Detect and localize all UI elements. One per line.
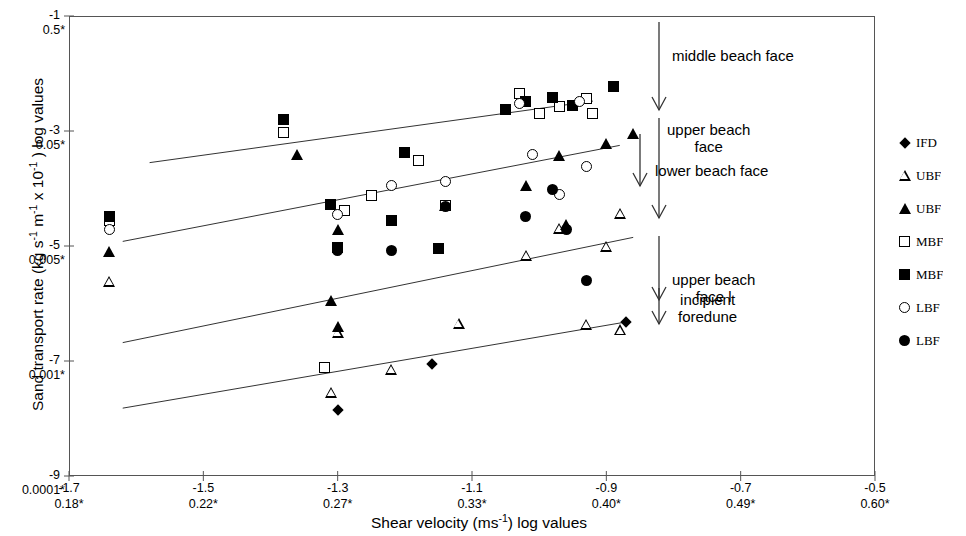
x-tick-secondary-3: 0.33* — [457, 498, 486, 511]
legend-marker-diamond-filled — [896, 139, 913, 147]
legend-item-1[interactable]: UBF — [896, 159, 966, 192]
y-axis-sup-2: -1 — [27, 205, 39, 214]
data-point-circle-open — [514, 98, 525, 109]
legend-marker-glyph — [899, 203, 911, 214]
data-point-square-filled — [386, 215, 397, 226]
legend-item-3[interactable]: MBF — [896, 225, 966, 258]
x-tick-secondary-0: 0.18* — [54, 498, 83, 511]
y-axis-title-mid1: m — [29, 214, 46, 231]
legend-marker-triangle-open — [896, 170, 913, 181]
y-axis-title-text: Sand transport rate (kg s — [29, 240, 46, 411]
y-tick-primary-0: -1 — [49, 9, 60, 22]
x-tick-secondary-5: 0.49* — [726, 498, 755, 511]
legend-item-2[interactable]: UBF — [896, 192, 966, 225]
y-axis-title-mid2: x 10 — [29, 171, 46, 205]
data-point-circle-open — [386, 180, 397, 191]
legend-item-6[interactable]: LBF — [896, 324, 966, 357]
data-point-circle-open — [574, 96, 585, 107]
data-point-triangle-filled — [520, 180, 532, 191]
y-tick-secondary-4: 0.0001* — [22, 484, 65, 497]
data-point-circle-filled — [581, 275, 592, 286]
data-point-triangle-filled — [332, 321, 344, 332]
legend-label: UBF — [916, 168, 941, 184]
legend-marker-circle-filled — [896, 335, 913, 346]
legend-item-0[interactable]: IFD — [896, 126, 966, 159]
y-axis-sup-3: -1 — [27, 162, 39, 171]
legend-label: MBF — [916, 267, 943, 283]
data-point-triangle-filled — [103, 246, 115, 257]
data-point-square-filled — [433, 243, 444, 254]
y-tick-secondary-0: 0.5* — [43, 24, 65, 37]
annotation-label-1: upper beach face — [667, 122, 750, 156]
data-point-circle-open — [527, 149, 538, 160]
data-point-square-open — [366, 190, 377, 201]
legend-marker-square-filled — [896, 269, 913, 280]
x-tick-primary-6: -0.5 — [864, 482, 886, 495]
legend-label: LBF — [916, 300, 940, 316]
legend-marker-glyph — [899, 335, 910, 346]
legend-label: MBF — [916, 234, 943, 250]
data-point-square-open — [278, 127, 289, 138]
legend-marker-glyph — [899, 302, 910, 313]
data-point-triangle-filled — [332, 224, 344, 235]
chart-canvas: -1.7-1.5-1.3-1.1-0.9-0.7-0.50.18*0.22*0.… — [0, 0, 966, 536]
data-point-square-filled — [399, 147, 410, 158]
data-point-triangle-open — [325, 387, 337, 398]
data-point-triangle-filled — [627, 128, 639, 139]
data-point-circle-filled — [440, 201, 451, 212]
data-point-triangle-open — [453, 318, 465, 329]
y-tick-primary-1: -3 — [49, 124, 60, 137]
x-tick-primary-4: -0.9 — [596, 482, 618, 495]
y-tick-primary-4: -9 — [49, 469, 60, 482]
data-point-circle-filled — [520, 211, 531, 222]
data-point-triangle-open — [103, 276, 115, 287]
data-point-triangle-filled — [291, 149, 303, 160]
data-point-triangle-open — [580, 319, 592, 330]
legend-marker-circle-open — [896, 302, 913, 313]
data-point-circle-filled — [386, 245, 397, 256]
data-point-triangle-open — [600, 241, 612, 252]
data-point-triangle-filled — [600, 138, 612, 149]
data-point-square-filled — [278, 114, 289, 125]
y-tick-primary-3: -7 — [49, 354, 60, 367]
x-tick-secondary-1: 0.22* — [189, 498, 218, 511]
data-point-square-open — [413, 155, 424, 166]
legend-marker-square-open — [896, 236, 913, 247]
y-tick-primary-2: -5 — [49, 239, 60, 252]
x-axis-sup: -1 — [498, 512, 507, 524]
data-point-triangle-open — [520, 250, 532, 261]
data-point-square-filled — [608, 81, 619, 92]
y-axis-title: Sand transport rate (kg s-1 m-1 x 10-1 )… — [27, 81, 47, 411]
data-point-square-open — [587, 108, 598, 119]
legend-marker-glyph — [899, 236, 910, 247]
legend-marker-triangle-filled — [896, 203, 913, 214]
legend: IFDUBFUBFMBFMBFLBFLBF — [896, 126, 966, 357]
data-point-circle-open — [581, 161, 592, 172]
data-point-square-filled — [104, 211, 115, 222]
x-tick-primary-5: -0.7 — [730, 482, 752, 495]
data-point-triangle-filled — [553, 150, 565, 161]
x-axis-title-post: ) log values — [508, 514, 587, 531]
data-point-circle-open — [440, 176, 451, 187]
data-point-square-open — [319, 362, 330, 373]
legend-label: IFD — [916, 135, 937, 151]
x-axis-title-text: Shear velocity (ms — [371, 514, 498, 531]
y-axis-title-post: ) log values — [29, 78, 46, 162]
legend-label: UBF — [916, 201, 941, 217]
x-tick-primary-1: -1.5 — [193, 482, 215, 495]
x-axis-title: Shear velocity (ms-1) log values — [269, 512, 689, 532]
data-point-triangle-open — [385, 364, 397, 375]
data-point-triangle-open — [614, 208, 626, 219]
annotation-label-0: middle beach face — [672, 48, 794, 65]
x-tick-secondary-4: 0.40* — [592, 498, 621, 511]
legend-item-5[interactable]: LBF — [896, 291, 966, 324]
x-tick-secondary-6: 0.60* — [860, 498, 889, 511]
data-point-square-open — [534, 108, 545, 119]
legend-item-4[interactable]: MBF — [896, 258, 966, 291]
data-point-triangle-filled — [325, 295, 337, 306]
legend-marker-glyph — [899, 137, 910, 148]
x-tick-secondary-2: 0.27* — [323, 498, 352, 511]
legend-label: LBF — [916, 333, 940, 349]
legend-marker-glyph — [899, 269, 910, 280]
data-point-circle-filled — [561, 224, 572, 235]
